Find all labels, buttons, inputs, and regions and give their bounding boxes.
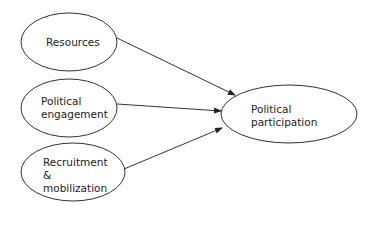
node-resources-label: Resources (46, 36, 100, 49)
edge-resources-to-participation (117, 38, 235, 95)
node-recruitment-label-line2: & (43, 169, 51, 182)
node-recruitment-label-line1: Recruitment (43, 156, 108, 169)
node-recruitment-label-line3: mobilization (43, 182, 107, 195)
node-participation-label-line1: Political (251, 103, 291, 116)
node-participation-label-line2: participation (251, 116, 317, 129)
edge-recruitment-to-participation (124, 128, 222, 169)
edge-engagement-to-participation (117, 104, 221, 111)
node-engagement-label-line2: engagement (41, 108, 108, 121)
node-engagement-label-line1: Political (41, 95, 81, 108)
